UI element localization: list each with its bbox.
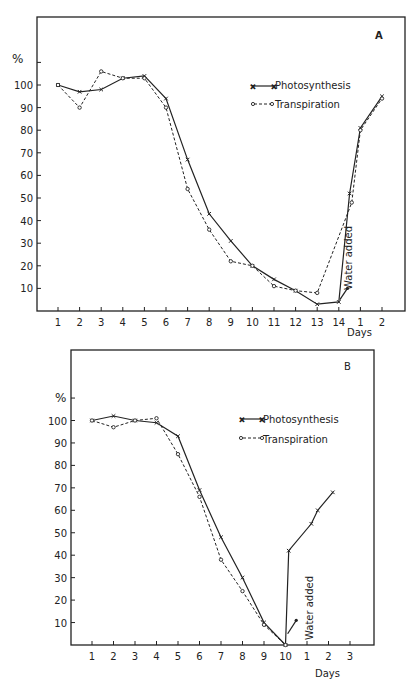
- svg-text:1: 1: [89, 651, 95, 662]
- svg-text:10: 10: [20, 283, 33, 294]
- svg-text:10: 10: [246, 317, 259, 328]
- chart-b-x-axis: 12345678910123: [89, 641, 353, 662]
- svg-text:100: 100: [48, 416, 67, 427]
- svg-text:20: 20: [20, 261, 33, 272]
- svg-text:8: 8: [206, 317, 212, 328]
- svg-text:60: 60: [54, 505, 67, 516]
- svg-text:90: 90: [54, 438, 67, 449]
- svg-text:4: 4: [153, 651, 159, 662]
- svg-text:5: 5: [175, 651, 181, 662]
- svg-text:1: 1: [55, 317, 61, 328]
- chart-a-x-axis: 123456789101112131412: [55, 307, 385, 328]
- photosynthesis-line: [92, 416, 333, 645]
- chart-b-series: [90, 414, 334, 647]
- figure: A % Days 102030405060708090100 123456789…: [0, 0, 418, 688]
- svg-text:13: 13: [311, 317, 324, 328]
- chart-a-water-added: Water added: [343, 226, 354, 290]
- svg-text:14: 14: [332, 317, 345, 328]
- svg-text:2: 2: [325, 651, 331, 662]
- svg-text:90: 90: [20, 103, 33, 114]
- svg-text:50: 50: [20, 193, 33, 204]
- svg-text:70: 70: [54, 483, 67, 494]
- svg-text:30: 30: [20, 238, 33, 249]
- svg-text:100: 100: [14, 80, 33, 91]
- svg-text:4: 4: [120, 317, 126, 328]
- svg-text:7: 7: [184, 317, 190, 328]
- svg-text:60: 60: [20, 170, 33, 181]
- svg-text:40: 40: [20, 216, 33, 227]
- svg-text:8: 8: [239, 651, 245, 662]
- chart-b-legend: × × Photosynthesis Transpiration: [239, 414, 339, 445]
- svg-text:3: 3: [98, 317, 104, 328]
- svg-text:3: 3: [347, 651, 353, 662]
- svg-text:10: 10: [54, 618, 67, 629]
- svg-text:2: 2: [76, 317, 82, 328]
- legend-transpiration: Transpiration: [262, 434, 328, 445]
- chart-b-water-added: Water added: [304, 576, 315, 640]
- chart-b-panel-label: B: [344, 361, 351, 372]
- legend-photosynthesis: Photosynthesis: [275, 80, 351, 91]
- chart-a-legend: × × Photosynthesis Transpiration: [250, 80, 351, 110]
- photosynthesis-line: [58, 76, 382, 304]
- svg-text:2: 2: [379, 317, 385, 328]
- chart-b: B % Days 102030405060708090100 123456789…: [48, 350, 374, 679]
- svg-text:1: 1: [357, 317, 363, 328]
- svg-text:1: 1: [304, 651, 310, 662]
- legend-transpiration: Transpiration: [274, 99, 340, 110]
- chart-a-y-unit: %: [12, 52, 23, 66]
- svg-text:6: 6: [163, 317, 169, 328]
- transpiration-line: [92, 418, 286, 645]
- svg-text:5: 5: [141, 317, 147, 328]
- svg-text:×: ×: [250, 83, 256, 91]
- svg-text:×: ×: [239, 416, 245, 424]
- svg-text:80: 80: [20, 125, 33, 136]
- chart-b-x-label: Days: [315, 668, 340, 679]
- svg-text:50: 50: [54, 528, 67, 539]
- chart-a: A % Days 102030405060708090100 123456789…: [12, 17, 405, 338]
- svg-text:3: 3: [132, 651, 138, 662]
- svg-text:20: 20: [54, 595, 67, 606]
- svg-text:12: 12: [289, 317, 302, 328]
- svg-text:40: 40: [54, 550, 67, 561]
- svg-text:6: 6: [196, 651, 202, 662]
- svg-text:70: 70: [20, 148, 33, 159]
- chart-a-panel-label: A: [375, 30, 383, 41]
- svg-text:2: 2: [110, 651, 116, 662]
- chart-b-y-unit: %: [55, 391, 66, 405]
- svg-text:10: 10: [279, 651, 292, 662]
- legend-photosynthesis: Photosynthesis: [263, 414, 339, 425]
- svg-text:7: 7: [218, 651, 224, 662]
- svg-text:9: 9: [261, 651, 267, 662]
- svg-text:80: 80: [54, 460, 67, 471]
- svg-text:11: 11: [268, 317, 281, 328]
- svg-text:30: 30: [54, 573, 67, 584]
- svg-text:9: 9: [228, 317, 234, 328]
- chart-a-x-label: Days: [347, 327, 372, 338]
